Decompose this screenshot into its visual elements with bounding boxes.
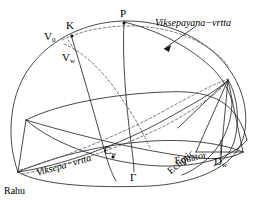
dashed-K-arc — [64, 44, 150, 148]
label-point-Cw: Cw — [104, 145, 116, 156]
point-markers — [71, 22, 126, 159]
label-Vw-subscript: w — [70, 57, 75, 65]
meridian-P-gamma — [123, 22, 134, 172]
viksepayana-leader — [164, 26, 196, 49]
label-Dw-subscript: w — [222, 161, 227, 169]
label-point-P: P — [120, 8, 126, 19]
node-chords — [178, 80, 228, 128]
label-viksepayana-vrtta: Viksepayana−vrtta — [155, 18, 231, 28]
label-point-Vw: Vw — [62, 52, 75, 63]
sphere-outline — [11, 21, 246, 187]
horizon-circle-back — [26, 92, 247, 140]
celestial-sphere-figure: P K V0 Vw Cw Dw Γ Rahu Viksepayana−vrtta… — [0, 0, 263, 205]
label-point-gamma: Γ — [130, 172, 136, 183]
rahu-chord-1 — [18, 120, 26, 172]
label-point-Dw: Dw — [214, 156, 227, 167]
label-point-V0: V0 — [44, 31, 55, 42]
marker-K — [71, 35, 74, 38]
ecliptic-circle-upper — [214, 80, 237, 166]
node-chord-3 — [221, 80, 228, 155]
label-Cw-subscript: w — [111, 150, 116, 158]
label-point-K: K — [66, 20, 74, 31]
label-V0-subscript: 0 — [52, 36, 56, 44]
marker-P — [123, 22, 126, 25]
label-rahu: Rahu — [4, 186, 25, 196]
